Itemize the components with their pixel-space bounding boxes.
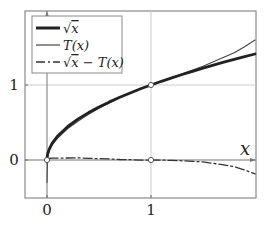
x-axis-arrow-icon: [250, 158, 256, 162]
open-circle-marker-icon: [44, 157, 49, 162]
x-tick-label-1: 1: [146, 201, 156, 219]
legend-label-sqrt: √x: [63, 21, 79, 36]
y-tick-label-0: 0: [9, 151, 19, 169]
legend-label-t: T(x): [63, 38, 89, 53]
x-tick-label-0: 0: [42, 201, 52, 219]
open-circle-marker-icon: [148, 82, 153, 87]
legend: √x T(x) √x − T(x): [32, 16, 124, 73]
open-circle-marker-icon: [148, 157, 153, 162]
y-tick-label-1: 1: [9, 76, 19, 94]
markers: [44, 82, 153, 162]
chart: 0 1 0 1 x √x T(x) √x − T(x): [0, 0, 268, 227]
x-axis-label: x: [240, 138, 250, 159]
legend-label-diff: √x − T(x): [63, 55, 124, 70]
